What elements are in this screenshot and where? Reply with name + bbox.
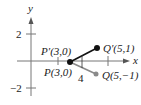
segment-p-q-prime xyxy=(70,48,97,62)
y-axis-arrow-icon xyxy=(29,17,34,24)
point-q xyxy=(94,72,99,77)
y-tick-label-2: 2 xyxy=(16,28,22,40)
label-q: Q(5,−1) xyxy=(102,69,139,82)
label-q-prime: Q′(5,1) xyxy=(103,42,135,55)
y-axis-label: y xyxy=(27,2,33,14)
label-p-prime: P′(3,0) xyxy=(40,45,72,58)
point-q-prime xyxy=(94,45,100,51)
x-axis-arrow-icon xyxy=(123,59,130,64)
y-tick-label-neg2: −2 xyxy=(10,82,22,94)
coordinate-diagram: y x 2 −2 P′(3,0) P(3,0) Q′(5,1) Q(5,−1) … xyxy=(0,0,141,105)
label-p: P(3,0) xyxy=(43,66,72,79)
x-axis-label: x xyxy=(132,54,138,66)
length-label: 4 xyxy=(78,72,84,84)
point-p xyxy=(67,59,73,65)
